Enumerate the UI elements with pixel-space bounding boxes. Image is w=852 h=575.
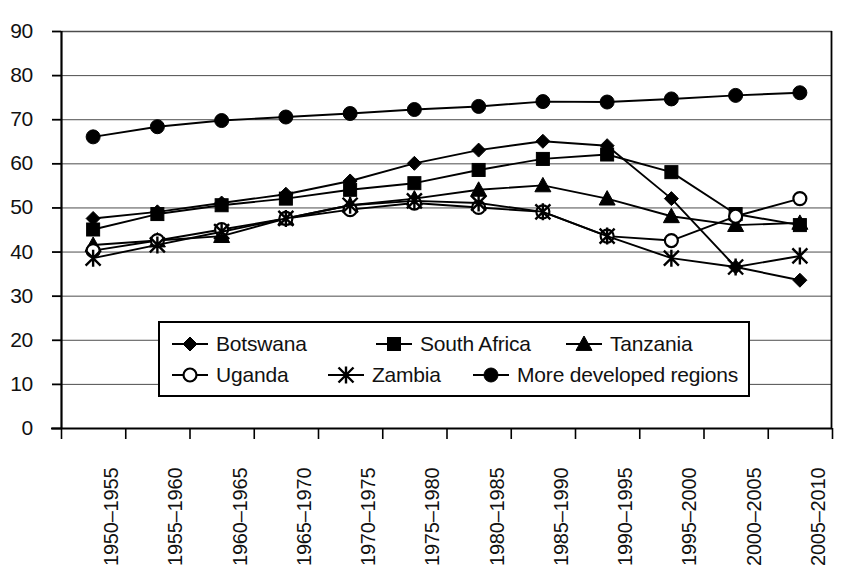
- x-axis-tick-label: 1950–1955: [101, 468, 121, 566]
- x-axis-tick-label: 2005–2010: [808, 468, 828, 566]
- legend-entry[interactable]: Botswana: [170, 328, 374, 359]
- legend-entry[interactable]: Tanzania: [564, 328, 692, 359]
- x-axis-tick-label: 1990–1995: [615, 468, 635, 566]
- x-axis-tick-label: 1955–1960: [165, 468, 185, 566]
- x-axis-tick-label: 1980–1985: [487, 468, 507, 566]
- legend-marker-square: [374, 334, 414, 354]
- legend-marker-asterisk: [326, 365, 366, 385]
- legend-row: UgandaZambiaMore developed regions: [170, 359, 738, 390]
- marker-diamond: [183, 337, 197, 351]
- x-axis-tick-label: 1995–2000: [679, 468, 699, 566]
- legend-marker-triangle: [564, 334, 604, 354]
- legend-row: BotswanaSouth AfricaTanzania: [170, 328, 738, 359]
- legend-label: Botswana: [216, 333, 307, 354]
- legend-label: Uganda: [216, 364, 288, 385]
- x-axis-tick-label: 1965–1970: [294, 468, 314, 566]
- x-axis-tick-label: 1970–1975: [358, 468, 378, 566]
- legend-label: South Africa: [420, 333, 531, 354]
- x-axis-tick-label: 2000–2005: [744, 468, 764, 566]
- marker-circle-open: [184, 368, 197, 381]
- x-axis-tick-label: 1985–1990: [551, 468, 571, 566]
- marker-square: [388, 337, 401, 350]
- legend-marker-diamond: [170, 334, 210, 354]
- chart-legend: BotswanaSouth AfricaTanzaniaUgandaZambia…: [158, 321, 750, 397]
- marker-circle: [484, 368, 498, 382]
- legend-label: Zambia: [372, 364, 441, 385]
- legend-entry[interactable]: Zambia: [326, 359, 471, 390]
- legend-entry[interactable]: Uganda: [170, 359, 326, 390]
- x-axis-tick-label: 1960–1965: [230, 468, 250, 566]
- legend-label: Tanzania: [610, 333, 692, 354]
- x-axis-tick-label: 1975–1980: [422, 468, 442, 566]
- legend-marker-circle-open: [170, 365, 210, 385]
- legend-entry[interactable]: More developed regions: [471, 359, 738, 390]
- chart-container: 9080706050403020100 1950–19551955–196019…: [0, 0, 852, 575]
- x-axis-tick-labels: 1950–19551955–19601960–19651965–19701970…: [0, 0, 852, 575]
- legend-label: More developed regions: [517, 364, 738, 385]
- legend-entry[interactable]: South Africa: [374, 328, 564, 359]
- legend-marker-circle: [471, 365, 511, 385]
